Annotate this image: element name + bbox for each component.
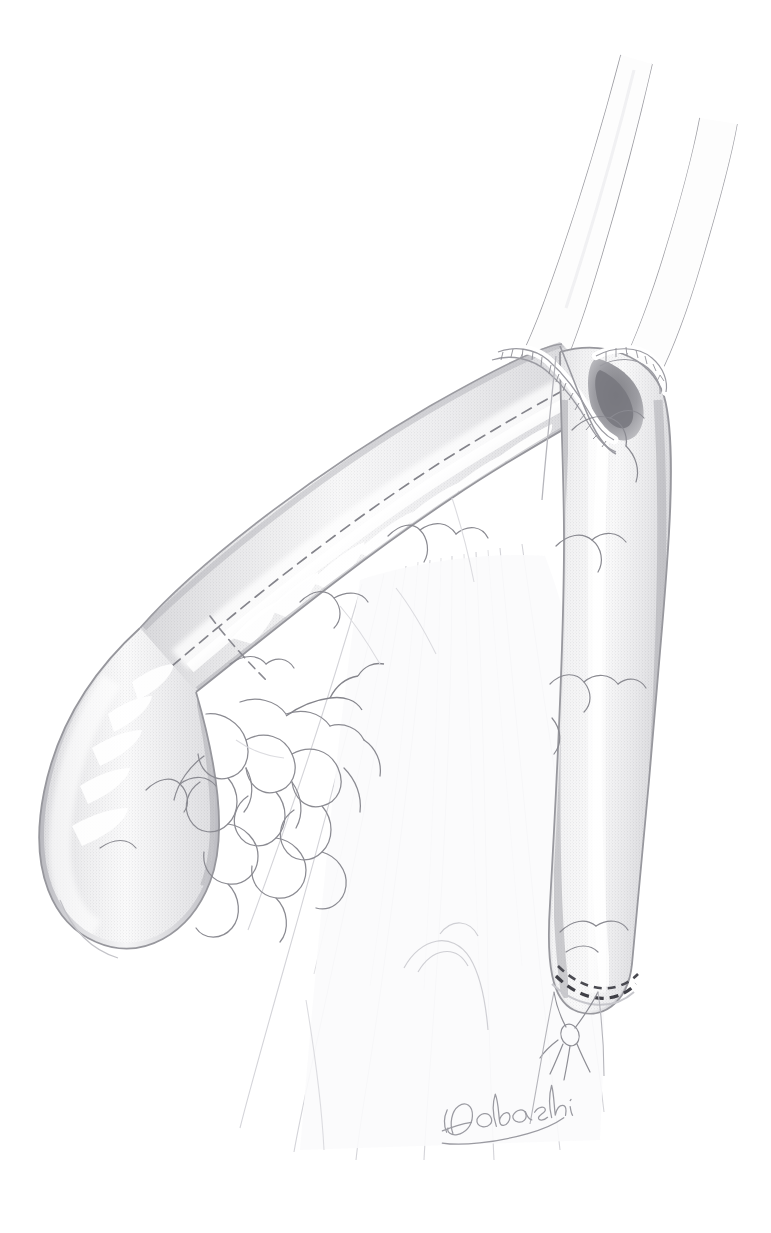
illustration-canvas bbox=[0, 0, 771, 1233]
surgical-illustration-figure: Roux-en-Y jejunal limb anastomosis Dobas… bbox=[0, 0, 771, 1233]
